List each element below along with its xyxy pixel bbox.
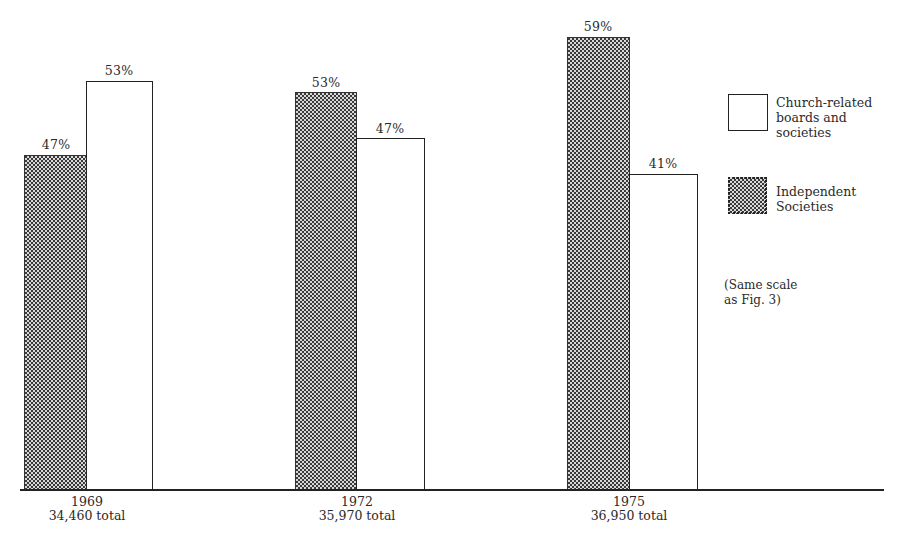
x-label-year: 1969 (17, 495, 157, 509)
x-label-1975: 1975 36,950 total (559, 495, 699, 523)
bar-1972-independent (295, 92, 357, 490)
legend-swatch-church (728, 94, 768, 131)
bar-1975-independent (567, 37, 630, 490)
x-label-year: 1975 (559, 495, 699, 509)
bar-label-1972-independent: 53% (291, 75, 361, 90)
x-axis-baseline (20, 489, 884, 491)
bar-label-1969-independent: 47% (21, 137, 91, 152)
bar-label-1975-church: 41% (628, 156, 698, 171)
legend-label-church: Church-related boards and societies (776, 95, 872, 140)
bar-1972-church (356, 138, 425, 490)
legend-label-independent: Independent Societies (776, 184, 856, 214)
bar-label-1972-church: 47% (355, 121, 425, 136)
x-label-1972: 1972 35,970 total (287, 495, 427, 523)
bar-1969-independent (24, 155, 87, 490)
x-label-total: 35,970 total (287, 509, 427, 523)
x-label-year: 1972 (287, 495, 427, 509)
legend-swatch-independent (728, 177, 767, 214)
x-label-1969: 1969 34,460 total (17, 495, 157, 523)
x-label-total: 36,950 total (559, 509, 699, 523)
scale-note: (Same scale as Fig. 3) (724, 278, 797, 308)
x-label-total: 34,460 total (17, 509, 157, 523)
bar-1969-church (86, 81, 153, 490)
bar-chart: 47% 53% 53% 47% 59% 41% 1969 34,460 tota… (0, 0, 904, 549)
bar-1975-church (629, 174, 698, 490)
bar-label-1969-church: 53% (84, 63, 154, 78)
bar-label-1975-independent: 59% (563, 19, 633, 34)
